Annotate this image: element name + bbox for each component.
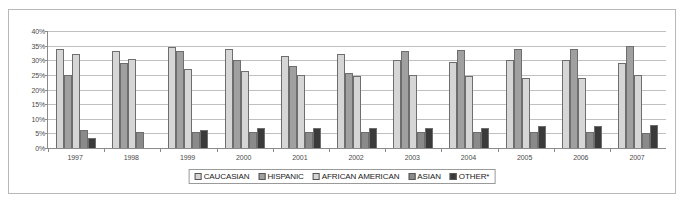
bar	[465, 76, 473, 148]
bar	[530, 132, 538, 148]
y-axis-tick-label: 40%	[15, 28, 45, 35]
bar	[233, 60, 241, 148]
x-axis-tick-mark	[441, 148, 442, 152]
bar	[64, 75, 72, 148]
x-axis-tick-mark	[160, 148, 161, 152]
bar	[136, 132, 144, 148]
x-axis-tick-label: 2003	[384, 153, 440, 165]
bar	[337, 54, 345, 148]
bar	[241, 71, 249, 149]
bar	[297, 75, 305, 148]
bar	[586, 132, 594, 148]
bar-groups	[48, 31, 666, 148]
bar-group	[329, 31, 385, 148]
bar-group	[498, 31, 554, 148]
bar	[481, 128, 489, 148]
bar-group	[273, 31, 329, 148]
bar	[417, 132, 425, 148]
bar	[289, 66, 297, 148]
x-axis-tick-label: 2000	[216, 153, 272, 165]
x-axis-tick-label: 2002	[328, 153, 384, 165]
bar	[626, 46, 634, 148]
y-axis-tick-label: 15%	[15, 101, 45, 108]
bar-group	[48, 31, 104, 148]
x-axis-tick-label: 2005	[497, 153, 553, 165]
x-axis-tick-label: 1999	[159, 153, 215, 165]
legend-item[interactable]: ASIAN	[408, 172, 441, 181]
legend-swatch-icon	[450, 173, 457, 180]
bar	[457, 50, 465, 148]
bar	[401, 51, 409, 148]
legend-item-label: ASIAN	[417, 172, 441, 181]
legend-swatch-icon	[195, 173, 202, 180]
legend-swatch-icon	[258, 173, 265, 180]
bar	[176, 51, 184, 148]
legend-item[interactable]: AFRICAN AMERICAN	[313, 172, 400, 181]
bar	[642, 133, 650, 148]
y-axis-tick-label: 10%	[15, 115, 45, 122]
bar	[570, 49, 578, 148]
bar	[514, 49, 522, 148]
legend-item[interactable]: CAUCASIAN	[195, 172, 250, 181]
legend-item[interactable]: OTHER*	[450, 172, 490, 181]
bar	[650, 125, 658, 148]
plot-area	[47, 31, 666, 149]
chart-legend: CAUCASIANHISPANICAFRICAN AMERICANASIANOT…	[189, 169, 496, 184]
bar	[618, 63, 626, 148]
legend-item-label: CAUCASIAN	[204, 172, 250, 181]
bar	[425, 128, 433, 148]
y-axis-tick-label: 20%	[15, 86, 45, 93]
bar	[56, 49, 64, 148]
bar	[449, 62, 457, 148]
bar	[393, 60, 401, 148]
bar	[562, 60, 570, 148]
x-axis-labels: 1997199819992000200120022003200420052006…	[47, 153, 665, 165]
x-axis-tick-mark	[610, 148, 611, 152]
x-axis-tick-mark	[385, 148, 386, 152]
bar-group	[441, 31, 497, 148]
bar	[225, 49, 233, 148]
bar	[305, 132, 313, 148]
x-axis-tick-mark	[498, 148, 499, 152]
bar	[473, 132, 481, 148]
bar-group	[554, 31, 610, 148]
y-axis-labels: 40%35%30%25%20%15%10%5%0%	[15, 31, 45, 148]
bar	[249, 132, 257, 148]
x-axis-tick-label: 1998	[103, 153, 159, 165]
x-axis-tick-label: 2004	[440, 153, 496, 165]
x-axis-tick-mark	[554, 148, 555, 152]
bar	[578, 78, 586, 148]
legend-swatch-icon	[313, 173, 320, 180]
bar	[522, 78, 530, 148]
bar	[112, 51, 120, 148]
legend-item-label: OTHER*	[459, 172, 490, 181]
legend-item[interactable]: HISPANIC	[258, 172, 303, 181]
y-axis-tick-label: 30%	[15, 57, 45, 64]
bar	[168, 47, 176, 148]
x-axis-tick-mark	[273, 148, 274, 152]
y-axis-tick-label: 0%	[15, 145, 45, 152]
bar	[128, 59, 136, 148]
x-axis-tick-label: 2007	[609, 153, 665, 165]
x-axis-tick-mark	[329, 148, 330, 152]
bar-group	[160, 31, 216, 148]
bar	[409, 75, 417, 148]
bar	[594, 126, 602, 148]
legend-item-label: HISPANIC	[267, 172, 303, 181]
plot-area-wrapper: 40%35%30%25%20%15%10%5%0% 19971998199920…	[9, 10, 677, 160]
bar	[257, 128, 265, 148]
bar	[313, 128, 321, 148]
bar	[72, 54, 80, 148]
bar	[353, 76, 361, 148]
bar	[506, 60, 514, 148]
legend-swatch-icon	[408, 173, 415, 180]
bar	[634, 75, 642, 148]
bar	[361, 132, 369, 148]
x-axis-tick-mark	[217, 148, 218, 152]
chart-frame: 40%35%30%25%20%15%10%5%0% 19971998199920…	[8, 9, 676, 194]
x-axis-tick-mark	[48, 148, 49, 152]
x-axis-tick-mark	[104, 148, 105, 152]
bar	[345, 73, 353, 148]
bar	[184, 69, 192, 148]
y-axis-tick-label: 35%	[15, 42, 45, 49]
